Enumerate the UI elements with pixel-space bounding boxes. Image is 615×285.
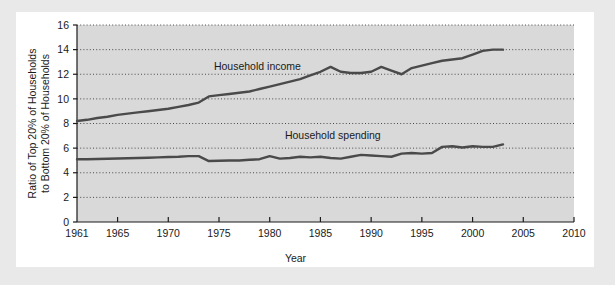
y-tick-label-2: 2 xyxy=(63,191,69,203)
y-axis-title-line-2: to Bottom 20% of Households xyxy=(39,54,51,193)
y-tick-label-4: 4 xyxy=(63,166,69,178)
y-tick-label-0: 0 xyxy=(63,216,69,228)
y-axis-ticks-group: 0246810121416 xyxy=(57,19,77,228)
y-axis-title-group: Ratio of Top 20% of Households to Bottom… xyxy=(26,49,51,199)
series-label-household-spending: Household spending xyxy=(285,129,381,141)
x-tick-label-1965: 1965 xyxy=(106,227,130,239)
x-tick-label-1985: 1985 xyxy=(309,227,333,239)
x-tick-label-2010: 2010 xyxy=(562,227,586,239)
x-axis-title: Year xyxy=(285,252,307,264)
x-tick-label-2000: 2000 xyxy=(461,227,485,239)
screenshot-root: 0246810121416 19611965197019751980198519… xyxy=(0,0,615,285)
x-tick-label-1980: 1980 xyxy=(258,227,282,239)
x-tick-label-1995: 1995 xyxy=(410,227,434,239)
y-tick-label-8: 8 xyxy=(63,117,69,129)
x-tick-label-1975: 1975 xyxy=(207,227,231,239)
y-tick-label-14: 14 xyxy=(57,43,69,55)
y-axis-title-line-1: Ratio of Top 20% of Households xyxy=(26,49,38,199)
line-chart-figure: 0246810121416 19611965197019751980198519… xyxy=(16,12,594,267)
x-tick-label-2005: 2005 xyxy=(512,227,536,239)
x-tick-label-1961: 1961 xyxy=(65,227,89,239)
series-label-household-income: Household income xyxy=(214,60,301,72)
y-tick-label-10: 10 xyxy=(57,93,69,105)
x-tick-label-1970: 1970 xyxy=(157,227,181,239)
y-tick-label-12: 12 xyxy=(57,68,69,80)
chart-card: 0246810121416 19611965197019751980198519… xyxy=(16,12,594,267)
y-tick-label-16: 16 xyxy=(57,19,69,31)
y-tick-label-6: 6 xyxy=(63,142,69,154)
x-tick-label-1990: 1990 xyxy=(359,227,383,239)
